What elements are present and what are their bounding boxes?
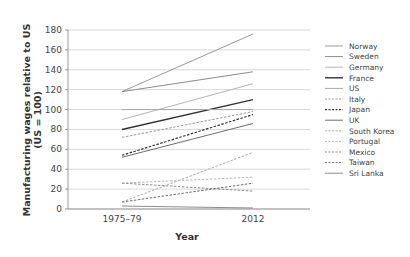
legend: NorwaySwedenGermanyFranceUSItalyJapanUKS… — [325, 42, 394, 178]
legend-label: South Korea — [349, 127, 394, 136]
legend-item: France — [325, 74, 374, 83]
y-axis-title-line1: Manufacturing wages relative to US — [21, 24, 32, 217]
y-axis-title: Manufacturing wages relative to US (US =… — [21, 24, 43, 217]
legend-label: Sweden — [349, 52, 379, 61]
y-tick-label: 160 — [45, 45, 62, 55]
series-line-mexico — [122, 183, 253, 191]
legend-label: Portugal — [349, 137, 380, 146]
legend-item: Taiwan — [325, 158, 375, 167]
x-tick-label: 2012 — [242, 214, 265, 224]
x-axis-title: Year — [174, 231, 199, 242]
line-chart: 020406080100120140160180 1975–792012 Nor… — [0, 0, 410, 257]
y-tick-label: 0 — [56, 204, 62, 214]
legend-label: US — [349, 84, 359, 93]
legend-label: Japan — [348, 105, 370, 114]
legend-label: Italy — [349, 95, 366, 104]
y-tick-label: 60 — [51, 144, 63, 154]
series-line-sri-lanka — [122, 206, 253, 208]
y-tick-label: 180 — [45, 25, 62, 35]
x-tick-label: 1975–79 — [103, 214, 142, 224]
y-tick-label: 120 — [45, 85, 62, 95]
data-series — [122, 34, 253, 208]
legend-label: France — [349, 74, 374, 83]
x-axis: 1975–792012 — [68, 209, 310, 224]
series-line-portugal — [122, 177, 253, 183]
gridlines — [68, 30, 310, 209]
legend-label: Sri Lanka — [349, 169, 384, 178]
legend-label: Mexico — [349, 148, 376, 157]
legend-item: Germany — [325, 63, 384, 72]
legend-label: Germany — [349, 63, 384, 72]
legend-label: Norway — [349, 42, 378, 51]
y-axis-title-line2: (US = 100) — [32, 91, 43, 149]
series-line-south-korea — [122, 152, 253, 202]
legend-item: Sweden — [325, 52, 379, 61]
series-line-norway — [122, 34, 253, 92]
series-line-taiwan — [122, 183, 253, 202]
y-tick-label: 40 — [51, 164, 63, 174]
legend-item: Mexico — [325, 148, 376, 157]
legend-item: Japan — [325, 105, 370, 114]
legend-item: Portugal — [325, 137, 380, 146]
y-tick-label: 20 — [51, 184, 63, 194]
series-line-uk — [122, 123, 253, 157]
legend-item: Italy — [325, 95, 366, 104]
y-axis: 020406080100120140160180 — [45, 25, 68, 214]
legend-item: Sri Lanka — [325, 169, 384, 178]
y-tick-label: 80 — [51, 124, 63, 134]
legend-item: US — [325, 84, 359, 93]
legend-label: Taiwan — [348, 158, 375, 167]
legend-item: South Korea — [325, 127, 394, 136]
y-tick-label: 100 — [45, 105, 62, 115]
y-tick-label: 140 — [45, 65, 62, 75]
legend-item: Norway — [325, 42, 378, 51]
legend-item: UK — [325, 116, 360, 125]
legend-label: UK — [349, 116, 360, 125]
